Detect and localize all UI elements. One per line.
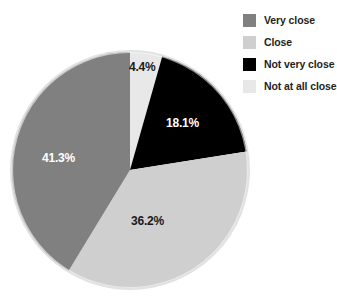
pie-label-very-close: 41.3%	[42, 152, 75, 164]
legend-item-very-close[interactable]: Very close	[243, 12, 337, 28]
pie-label-not-very-close: 18.1%	[166, 117, 199, 129]
pie-svg	[0, 0, 250, 307]
pie-chart: 4.4% 18.1% 41.3% 36.2% Very close Close …	[0, 0, 337, 307]
legend-label-not-at-all-close: Not at all close	[264, 81, 337, 92]
chart-legend: Very close Close Not very close Not at a…	[243, 12, 337, 100]
pie-label-not-at-all-close: 4.4%	[129, 61, 156, 73]
pie-slices	[12, 52, 248, 288]
legend-swatch-icon-not-very-close	[243, 58, 256, 71]
legend-label-very-close: Very close	[264, 15, 315, 26]
legend-item-close[interactable]: Close	[243, 34, 337, 50]
legend-swatch-icon-not-at-all-close	[243, 80, 256, 93]
legend-label-not-very-close: Not very close	[264, 59, 334, 70]
legend-item-not-at-all-close[interactable]: Not at all close	[243, 78, 337, 94]
pie-graphic: 4.4% 18.1% 41.3% 36.2%	[0, 0, 250, 307]
legend-swatch-icon-close	[243, 36, 256, 49]
legend-swatch-icon-very-close	[243, 14, 256, 27]
legend-item-not-very-close[interactable]: Not very close	[243, 56, 337, 72]
pie-label-close: 36.2%	[131, 215, 164, 227]
legend-label-close: Close	[264, 37, 292, 48]
